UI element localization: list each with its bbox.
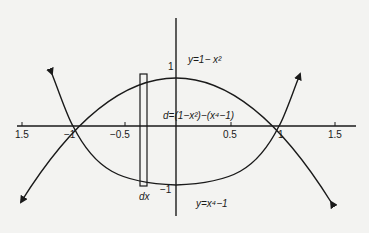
- x-tick-label: 1.5: [328, 129, 342, 140]
- difference-label: d=(1−x²)−(x⁴−1): [163, 110, 234, 121]
- area-between-curves-diagram: 1.5 −1 −0.5 0.5 1 1.5 1 −1 y=1− x² d=(1−…: [0, 0, 369, 233]
- x-tick-label: 1.5: [15, 129, 29, 140]
- y-tick-label: 1: [168, 61, 174, 72]
- lower-curve-label: y=x⁴−1: [195, 198, 228, 209]
- upper-curve-label: y=1− x²: [187, 54, 222, 65]
- strip-width-label: dx: [139, 191, 151, 202]
- y-tick-label: −1: [160, 184, 172, 195]
- x-tick-label: 0.5: [223, 129, 237, 140]
- x-tick-label: −0.5: [110, 129, 130, 140]
- area-strip: [140, 74, 147, 186]
